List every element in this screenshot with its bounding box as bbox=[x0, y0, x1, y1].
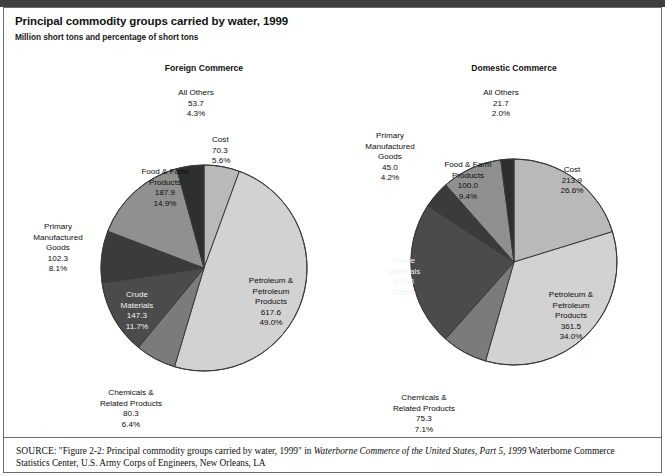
pie-label-name-line: Related Products bbox=[100, 399, 162, 410]
pie-label-food: Food & FarmProducts187.914.9% bbox=[141, 167, 188, 209]
pie-label-name-line: Primary bbox=[365, 131, 415, 142]
pie-label-petroleum: Petroleum &PetroleumProducts617.649.0% bbox=[249, 276, 294, 329]
pie-label-value: 75.3 bbox=[393, 414, 455, 425]
pie-label-value: 45.0 bbox=[365, 163, 415, 174]
source-quote: "Figure 2-2: Principal commodity groups … bbox=[59, 446, 302, 456]
pie-label-value: 617.6 bbox=[249, 308, 294, 319]
pie-label-name-line: Products bbox=[549, 311, 594, 322]
page-title: Principal commodity groups carried by wa… bbox=[15, 15, 288, 27]
pie-label-name-line: Crude bbox=[121, 290, 154, 301]
top-rule-divider bbox=[0, 0, 665, 7]
pie-label-name-line: Materials bbox=[388, 267, 421, 278]
pie-label-name-line: All Others bbox=[483, 88, 519, 99]
pie-label-percent: 4.2% bbox=[365, 173, 415, 184]
pie-label-crude: CrudeMaterials147.311.7% bbox=[121, 290, 154, 332]
pie-label-percent: 2.0% bbox=[483, 109, 519, 120]
pie-label-name-line: Crude bbox=[388, 256, 421, 267]
pie-label-value: 100.0 bbox=[444, 181, 491, 192]
pie-label-name-line: Products bbox=[249, 297, 294, 308]
pie-label-food: Food & FarmProducts100.09.4% bbox=[444, 160, 491, 202]
pie-label-name-line: Petroleum bbox=[249, 287, 294, 298]
pie-label-name-line: Petroleum & bbox=[549, 290, 594, 301]
pie-label-value: 70.3 bbox=[212, 146, 230, 157]
pie-label-primary: PrimaryManufacturedGoods102.38.1% bbox=[33, 222, 83, 275]
pie-label-name-line: Food & Farm bbox=[444, 160, 491, 171]
pie-label-name-line: Products bbox=[444, 171, 491, 182]
source-note: SOURCE: "Figure 2-2: Principal commodity… bbox=[16, 445, 650, 470]
pie-label-all_others: All Others21.72.0% bbox=[483, 88, 519, 120]
pie-label-value: 80.3 bbox=[100, 409, 162, 420]
pie-label-cost: Cost70.35.6% bbox=[212, 135, 230, 167]
pie-label-value: 53.7 bbox=[178, 99, 214, 110]
pie-label-percent: 49.0% bbox=[249, 318, 294, 329]
pie-label-name-line: Manufactured bbox=[365, 142, 415, 153]
pie-label-value: 102.3 bbox=[33, 254, 83, 265]
pie-label-name-line: Manufactured bbox=[33, 233, 83, 244]
pie-label-name-line: Petroleum & bbox=[249, 276, 294, 287]
pie-label-name-line: Petroleum bbox=[549, 301, 594, 312]
pie-label-percent: 11.7% bbox=[121, 322, 154, 333]
pie-label-chemicals: Chemicals &Related Products80.36.4% bbox=[100, 388, 162, 430]
source-publication: Waterborne Commerce of the United States… bbox=[314, 446, 527, 456]
pie-label-name-line: Food & Farm bbox=[141, 167, 188, 178]
pie-label-percent: 8.1% bbox=[33, 264, 83, 275]
pie-label-value: 213.9 bbox=[561, 176, 584, 187]
pie-chart-foreign-commerce bbox=[99, 163, 309, 373]
page-subtitle: Million short tons and percentage of sho… bbox=[15, 32, 198, 42]
chart-title-domestic-commerce: Domestic Commerce bbox=[471, 63, 557, 73]
pie-label-percent: 5.6% bbox=[212, 156, 230, 167]
pie-label-name-line: Cost bbox=[212, 135, 230, 146]
pie-label-name-line: Goods bbox=[33, 243, 83, 254]
pie-label-name-line: Primary bbox=[33, 222, 83, 233]
source-divider bbox=[4, 437, 661, 438]
pie-label-percent: 14.9% bbox=[141, 199, 188, 210]
figure-page: Principal commodity groups carried by wa… bbox=[0, 0, 665, 476]
pie-label-chemicals: Chemicals &Related Products75.37.1% bbox=[393, 393, 455, 435]
pie-label-percent: 26.6% bbox=[561, 186, 584, 197]
pie-label-name-line: Chemicals & bbox=[100, 388, 162, 399]
pie-label-percent: 6.4% bbox=[100, 420, 162, 431]
pie-label-crude: CrudeMaterials239.322.5% bbox=[388, 256, 421, 298]
pie-label-value: 187.9 bbox=[141, 188, 188, 199]
pie-label-value: 21.7 bbox=[483, 99, 519, 110]
pie-label-primary: PrimaryManufacturedGoods45.04.2% bbox=[365, 131, 415, 184]
pie-label-percent: 34.0% bbox=[549, 332, 594, 343]
pie-label-percent: 9.4% bbox=[444, 192, 491, 203]
pie-label-name-line: Cost bbox=[561, 165, 584, 176]
pie-label-percent: 4.3% bbox=[178, 109, 214, 120]
pie-label-name-line: Chemicals & bbox=[393, 393, 455, 404]
pie-label-name-line: Goods bbox=[365, 152, 415, 163]
pie-label-cost: Cost213.926.6% bbox=[561, 165, 584, 197]
pie-label-petroleum: Petroleum &PetroleumProducts361.534.0% bbox=[549, 290, 594, 343]
pie-label-value: 361.5 bbox=[549, 322, 594, 333]
pie-label-name-line: All Others bbox=[178, 88, 214, 99]
source-in-word: in bbox=[304, 446, 311, 456]
pie-label-name-line: Products bbox=[141, 178, 188, 189]
pie-label-value: 239.3 bbox=[388, 277, 421, 288]
pie-label-percent: 22.5% bbox=[388, 288, 421, 299]
chart-title-foreign-commerce: Foreign Commerce bbox=[165, 63, 243, 73]
pie-label-percent: 7.1% bbox=[393, 425, 455, 436]
source-label: SOURCE: bbox=[16, 445, 57, 456]
pie-label-name-line: Related Products bbox=[393, 404, 455, 415]
pie-label-all_others: All Others53.74.3% bbox=[178, 88, 214, 120]
pie-label-name-line: Materials bbox=[121, 301, 154, 312]
pie-label-value: 147.3 bbox=[121, 311, 154, 322]
